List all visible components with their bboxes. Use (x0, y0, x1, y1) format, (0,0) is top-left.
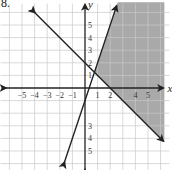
x-axis-label: x (167, 82, 172, 94)
x-tick-label: 4 (133, 91, 137, 100)
shaded-region (94, 2, 164, 142)
x-tick-label: −2 (56, 91, 65, 100)
x-tick-label: 2 (108, 91, 112, 100)
y-tick-label: 3 (88, 122, 92, 131)
x-tick-label: −1 (68, 91, 77, 100)
coordinate-graph: xy−5−4−3−2−1124554321345 (0, 0, 172, 170)
y-tick-label: 4 (88, 134, 92, 143)
x-tick-label: 5 (146, 91, 150, 100)
x-tick-label: −3 (43, 91, 52, 100)
x-tick-label: 1 (96, 91, 100, 100)
y-tick-label: 4 (88, 34, 92, 43)
x-tick-label: −4 (30, 91, 39, 100)
y-axis-label: y (87, 0, 93, 10)
y-tick-label: 5 (88, 147, 92, 156)
y-tick-label: 3 (88, 46, 92, 55)
x-tick-label: −5 (18, 91, 27, 100)
y-tick-label: 5 (88, 21, 92, 30)
y-tick-label: 1 (88, 71, 92, 80)
